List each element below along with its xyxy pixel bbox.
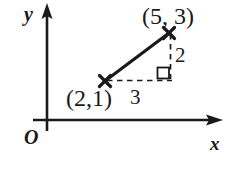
coordinate-diagram: y x O (5, 3) (2,1) 3 2 [0, 0, 236, 172]
y-axis-label: y [22, 3, 33, 26]
vertical-leg-label: 2 [175, 43, 186, 67]
lower-point-label: (2,1) [66, 85, 112, 111]
upper-point-label: (5, 3) [142, 3, 194, 29]
segment-hypotenuse [105, 33, 169, 81]
point-marker-upper [164, 28, 175, 39]
horizontal-leg-label: 3 [130, 85, 141, 109]
right-angle-marker [158, 68, 170, 79]
diagram-canvas: y x O (5, 3) (2,1) 3 2 [0, 0, 236, 172]
x-axis-label: x [209, 133, 220, 154]
origin-label: O [24, 126, 38, 148]
